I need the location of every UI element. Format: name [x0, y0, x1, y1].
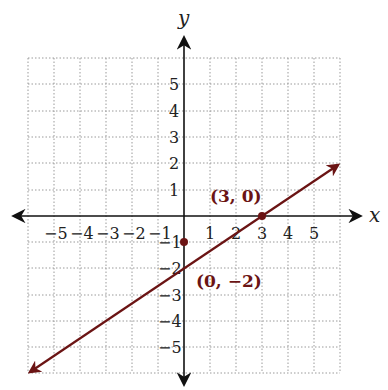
- point-0-neg2: [180, 238, 188, 246]
- svg-text:−3: −3: [158, 286, 182, 305]
- x-axis-label: x: [369, 203, 380, 227]
- svg-text:3: 3: [169, 128, 179, 147]
- svg-text:−4: −4: [158, 312, 182, 331]
- svg-text:−4: −4: [70, 224, 94, 243]
- svg-text:2: 2: [169, 154, 179, 173]
- svg-text:1: 1: [169, 181, 179, 200]
- svg-text:−2: −2: [122, 224, 146, 243]
- svg-text:4: 4: [169, 102, 179, 121]
- svg-text:−5: −5: [158, 338, 182, 357]
- point-label-3-0: (3, 0): [210, 186, 262, 206]
- svg-text:−1: −1: [158, 233, 182, 252]
- svg-text:1: 1: [205, 224, 215, 243]
- svg-text:4: 4: [283, 224, 293, 243]
- svg-text:−5: −5: [44, 224, 68, 243]
- svg-text:−3: −3: [96, 224, 120, 243]
- coordinate-plane: x y −5 −4 −3 −2 −1 1 2 3 4 5 5 4 3 2 1 −…: [0, 0, 388, 390]
- point-3-0: [258, 212, 266, 220]
- point-label-0-neg2: (0, −2): [196, 271, 262, 291]
- svg-text:−2: −2: [158, 259, 182, 278]
- svg-text:3: 3: [257, 224, 267, 243]
- y-axis-label: y: [177, 6, 190, 30]
- svg-text:5: 5: [169, 75, 179, 94]
- svg-text:5: 5: [309, 224, 319, 243]
